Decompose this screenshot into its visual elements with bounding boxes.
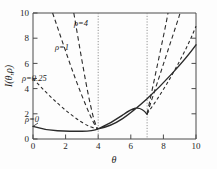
chart-plot: 0 2 4 6 8 10 0 2 4 6 8 10 θ I(θ,ρ) ρ=0 ρ… bbox=[0, 0, 217, 169]
x-axis-ticks bbox=[33, 135, 196, 140]
curve-rho-4-left bbox=[74, 13, 98, 129]
y-tick-label-10: 10 bbox=[20, 8, 30, 18]
vertical-guide-lines bbox=[98, 13, 147, 139]
y-tick-label-4: 4 bbox=[25, 84, 30, 94]
x-tick-label-0: 0 bbox=[31, 141, 36, 151]
curve-label-rho-1: ρ=1 bbox=[54, 42, 69, 52]
curve-label-rho-0: ρ=0 bbox=[24, 114, 40, 124]
curve-label-rho-4: ρ=4 bbox=[73, 18, 89, 28]
curve-rho-025-right bbox=[147, 26, 196, 114]
curve-rho-1-left bbox=[53, 13, 99, 129]
x-tick-label-2: 2 bbox=[63, 141, 68, 151]
y-axis-title: I(θ,ρ) bbox=[3, 64, 15, 88]
curve-rho-0 bbox=[33, 45, 196, 132]
y-tick-label-0: 0 bbox=[25, 134, 30, 144]
y-tick-label-8: 8 bbox=[25, 33, 30, 43]
curve-label-rho-025: ρ=0.25 bbox=[21, 73, 47, 83]
x-axis-title: θ bbox=[112, 154, 117, 165]
curve-rho-025-left bbox=[33, 79, 98, 129]
x-tick-label-10: 10 bbox=[192, 141, 202, 151]
y-tick-label-6: 6 bbox=[25, 59, 30, 69]
x-tick-label-4: 4 bbox=[96, 141, 101, 151]
x-tick-label-6: 6 bbox=[129, 141, 134, 151]
curve-rho-1-right bbox=[147, 13, 180, 114]
x-tick-label-8: 8 bbox=[161, 141, 166, 151]
figure-container: 0 2 4 6 8 10 0 2 4 6 8 10 θ I(θ,ρ) ρ=0 ρ… bbox=[0, 0, 217, 169]
